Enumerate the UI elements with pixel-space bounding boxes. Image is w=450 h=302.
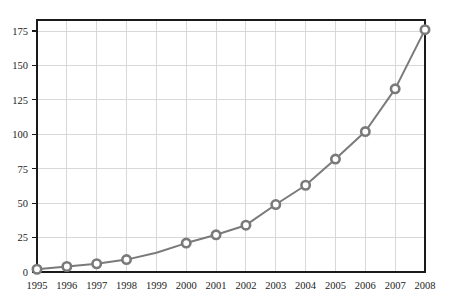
x-tick-label: 1999 [146,280,167,291]
x-tick-label: 2001 [206,280,227,291]
x-tick-label: 2005 [325,280,346,291]
x-tick-label: 2000 [176,280,197,291]
y-tick-label: 50 [18,198,29,209]
line-chart: 0255075100125150175 19951996199719981999… [0,0,450,302]
y-tick-label: 150 [12,60,28,71]
data-point-marker [361,127,369,135]
x-tick-label: 2008 [415,280,436,291]
data-point-marker [182,239,190,247]
y-tick-label: 175 [12,26,28,37]
data-point-marker [122,255,130,263]
data-point-marker [63,262,71,270]
chart-background [0,0,450,302]
x-tick-label: 1998 [116,280,137,291]
data-point-marker [421,25,429,33]
data-point-marker [391,85,399,93]
y-tick-label: 25 [18,232,29,243]
data-point-marker [331,155,339,163]
x-tick-label: 1997 [86,280,107,291]
x-tick-label: 2003 [265,280,286,291]
y-tick-label: 75 [18,164,29,175]
x-tick-label: 2002 [235,280,256,291]
data-point-marker [212,231,220,239]
x-tick-label: 1995 [27,280,48,291]
x-tick-label: 2007 [385,280,406,291]
data-point-marker [242,221,250,229]
data-point-marker [301,181,309,189]
data-point-marker [272,200,280,208]
x-tick-label: 1996 [56,280,77,291]
y-tick-label: 100 [12,129,28,140]
x-tick-label: 2004 [295,280,317,291]
chart-canvas: 0255075100125150175 19951996199719981999… [0,0,450,302]
data-point-marker [33,265,41,273]
y-tick-label: 125 [12,95,28,106]
data-point-marker [92,260,100,268]
y-tick-label: 0 [23,267,28,278]
x-tick-label: 2006 [355,280,376,291]
